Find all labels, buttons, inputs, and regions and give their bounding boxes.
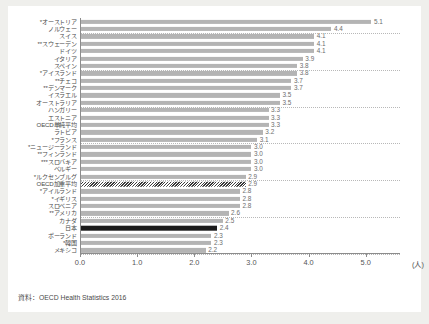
bar xyxy=(80,42,314,46)
bar xyxy=(80,93,280,97)
bar xyxy=(80,182,246,187)
bar-row: **チェコ3.7 xyxy=(80,77,400,84)
gridline xyxy=(80,254,400,255)
bar-row: ハンガリー3.3 xyxy=(80,107,400,114)
bar xyxy=(80,86,291,90)
bar-row: イスラエル3.5 xyxy=(80,92,400,99)
bar-row: *アイルランド2.8 xyxy=(80,188,400,195)
bar-value-label: 3.7 xyxy=(294,85,303,91)
plot-area: *オーストリア5.1ノルウェー4.4スイス4.1**スウェーデン4.1ドイツ4.… xyxy=(80,18,400,254)
chart-card: *オーストリア5.1ノルウェー4.4スイス4.1**スウェーデン4.1ドイツ4.… xyxy=(8,6,421,312)
category-label: **アメリカ xyxy=(49,210,77,216)
bar-value-label: 2.8 xyxy=(243,203,252,209)
category-label: *オーストリア xyxy=(40,19,77,25)
x-tick-label: 2.0 xyxy=(189,258,199,267)
category-label: エストニア xyxy=(48,115,77,121)
bar-row: *韓国2.3 xyxy=(80,239,400,246)
bar xyxy=(80,204,240,208)
bar-row: ポーランド2.3 xyxy=(80,232,400,239)
bar-rows: *オーストリア5.1ノルウェー4.4スイス4.1**スウェーデン4.1ドイツ4.… xyxy=(80,18,400,254)
category-label: ラトビア xyxy=(54,129,77,135)
bar-value-label: 4.4 xyxy=(334,26,343,32)
bar-row: **デンマーク3.7 xyxy=(80,84,400,91)
bar xyxy=(80,233,211,237)
bar-row: **フィンランド3.0 xyxy=(80,151,400,158)
bar-row: スペイン3.8 xyxy=(80,62,400,69)
category-label: イタリア xyxy=(54,56,77,62)
bar xyxy=(80,34,314,38)
bar xyxy=(80,197,240,201)
bar-row: エストニア3.3 xyxy=(80,114,400,121)
bar xyxy=(80,130,263,134)
x-tick xyxy=(80,254,81,257)
y-axis xyxy=(80,18,81,254)
category-label: メキシコ xyxy=(54,247,77,253)
bar-row: ***スロバキア3.0 xyxy=(80,158,400,165)
bar xyxy=(80,115,269,119)
x-tick xyxy=(194,254,195,257)
bar xyxy=(80,241,211,245)
category-label: 日本 xyxy=(65,225,77,231)
category-label: オーストラリア xyxy=(36,100,77,106)
bar xyxy=(80,138,257,142)
bar xyxy=(80,123,269,127)
category-label: *ニュージーランド xyxy=(28,144,77,150)
category-label: **フィンランド xyxy=(37,151,77,157)
category-label: スロベニア xyxy=(48,203,77,209)
category-label: スイス xyxy=(59,33,77,39)
category-label: **スウェーデン xyxy=(37,41,77,47)
bar-value-label: 4.1 xyxy=(317,48,326,54)
bar-row: *ルクセンブルグ2.9 xyxy=(80,173,400,180)
bar-row: **アメリカ2.6 xyxy=(80,210,400,217)
category-label: スペイン xyxy=(54,63,77,69)
x-axis-unit-label: (人) xyxy=(412,258,424,269)
category-label: *アイスランド xyxy=(40,70,77,76)
bar-row: オーストラリア3.5 xyxy=(80,99,400,106)
x-tick-label: 4.0 xyxy=(303,258,313,267)
category-label: ノルウェー xyxy=(48,26,77,32)
bar-row: *イギリス2.8 xyxy=(80,195,400,202)
bar-row: OECD加重平均2.9 xyxy=(80,180,400,187)
category-label: OECD単純平均 xyxy=(37,122,77,128)
bar xyxy=(80,49,314,53)
bar-row: イタリア3.9 xyxy=(80,55,400,62)
bar xyxy=(80,71,297,75)
bar-chart: *オーストリア5.1ノルウェー4.4スイス4.1**スウェーデン4.1ドイツ4.… xyxy=(8,6,421,278)
category-label: **デンマーク xyxy=(43,85,77,91)
bar xyxy=(80,101,280,105)
category-label: ***スロバキア xyxy=(41,159,77,165)
x-tick xyxy=(309,254,310,257)
bar xyxy=(80,79,291,83)
x-tick-label: 1.0 xyxy=(132,258,142,267)
bar-value-label: 5.1 xyxy=(374,18,383,24)
bar-row: *フランス3.1 xyxy=(80,136,400,143)
category-label: *イギリス xyxy=(51,196,77,202)
x-tick-label: 5.0 xyxy=(361,258,371,267)
category-label: ポーランド xyxy=(48,233,77,239)
x-tick xyxy=(251,254,252,257)
category-label: ハンガリー xyxy=(48,107,77,113)
bar-row: *ニュージーランド3.0 xyxy=(80,143,400,150)
bar xyxy=(80,226,217,231)
bar-row: 日本2.4 xyxy=(80,225,400,232)
category-label: ベルギー xyxy=(54,166,77,172)
bar xyxy=(80,160,251,164)
category-label: *フランス xyxy=(51,137,77,143)
bar xyxy=(80,152,251,156)
bar-row: ノルウェー4.4 xyxy=(80,25,400,32)
x-tick-label: 0.0 xyxy=(75,258,85,267)
bar xyxy=(80,145,251,149)
bar xyxy=(80,167,251,171)
x-tick xyxy=(366,254,367,257)
bar-row: カナダ2.5 xyxy=(80,217,400,224)
bar xyxy=(80,248,206,252)
bar-row: *オーストリア5.1 xyxy=(80,18,400,25)
bar xyxy=(80,108,269,112)
bar xyxy=(80,219,223,223)
bar xyxy=(80,20,371,24)
category-label: カナダ xyxy=(59,218,77,224)
bar-row: ベルギー3.0 xyxy=(80,166,400,173)
bar-row: *アイスランド3.8 xyxy=(80,70,400,77)
bar-row: スイス4.1 xyxy=(80,33,400,40)
bar-value-label: 3.5 xyxy=(283,100,292,106)
